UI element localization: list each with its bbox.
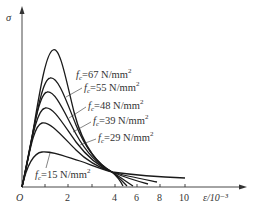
x-tick-label: 2 [65, 192, 70, 203]
x-axis-arrow-icon [239, 185, 247, 190]
series-label-fc-15: fc=15 N/mm2 [35, 167, 91, 182]
x-tick-label: 8 [157, 192, 162, 203]
leader-fc-15 [46, 153, 50, 168]
series-label-fc-39: fc=39 N/mm2 [93, 113, 149, 128]
series-label-fc-55: fc=55 N/mm2 [84, 80, 140, 95]
x-axis-label: ε/10⁻³ [203, 192, 229, 203]
stress-strain-chart: σ O 2 4 6 8 10 ε/10⁻³ fc=67 N/mm2 fc=55 … [0, 0, 264, 219]
x-tick-label: 10 [179, 192, 189, 203]
x-tick-label: 4 [112, 192, 117, 203]
y-axis-arrow-icon [20, 6, 25, 14]
series-label-fc-29: fc=29 N/mm2 [98, 130, 154, 145]
series-label-fc-67: fc=67 N/mm2 [76, 67, 132, 82]
x-tick-label: 6 [134, 192, 139, 203]
y-axis-label: σ [6, 12, 12, 23]
series-label-fc-48: fc=48 N/mm2 [88, 98, 144, 113]
origin-label: O [16, 192, 23, 203]
